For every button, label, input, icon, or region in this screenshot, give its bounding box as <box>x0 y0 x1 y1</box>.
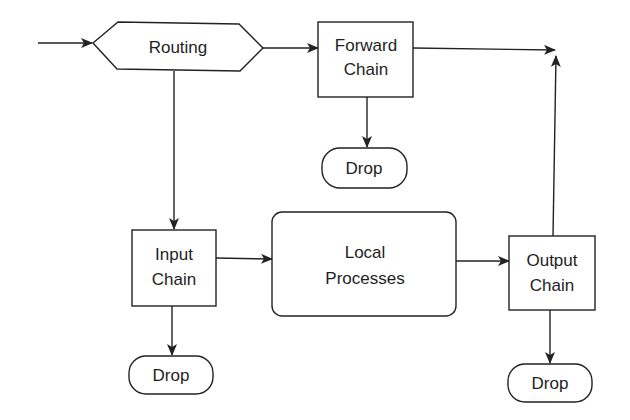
forward-chain-label-line2: Chain <box>344 60 388 79</box>
output-drop-node: Drop <box>508 364 592 402</box>
input-chain-label-line2: Chain <box>152 270 196 289</box>
output-chain-label-line2: Chain <box>530 276 574 295</box>
local-processes-label-line1: Local <box>345 243 386 262</box>
forward-to-exit-arrow <box>413 48 555 50</box>
packet-flow-diagram: Routing Forward Chain Drop Input Chain D… <box>0 0 630 420</box>
forward-chain-label-line1: Forward <box>335 36 397 55</box>
forward-drop-node: Drop <box>322 148 407 188</box>
forward-chain-node: Forward Chain <box>318 22 413 97</box>
routing-label: Routing <box>149 38 208 57</box>
local-processes-node: Local Processes <box>272 212 456 316</box>
output-chain-label-line1: Output <box>526 251 577 270</box>
output-to-exit-arrow <box>553 56 556 236</box>
forward-drop-label: Drop <box>346 159 383 178</box>
output-drop-label: Drop <box>532 374 569 393</box>
input-to-local-arrow <box>216 258 272 259</box>
local-processes-label-line2: Processes <box>325 269 404 288</box>
output-chain-node: Output Chain <box>509 236 595 310</box>
input-drop-node: Drop <box>129 356 213 394</box>
input-drop-label: Drop <box>153 366 190 385</box>
routing-node: Routing <box>93 22 263 71</box>
input-chain-node: Input Chain <box>132 230 216 306</box>
input-chain-label-line1: Input <box>155 245 193 264</box>
